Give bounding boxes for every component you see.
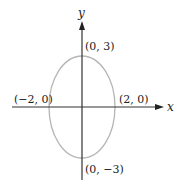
x-axis-arrow-icon [155,104,164,110]
y-axis-label: y [77,6,85,20]
point-label-right: (2, 0) [119,93,149,106]
point-label-top: (0, 3) [85,40,115,53]
y-axis-arrow-icon [79,21,85,30]
point-label-left: (−2, 0) [14,93,53,106]
point-label-bottom: (0, −3) [85,163,124,176]
x-axis-label: x [167,100,174,114]
ellipse-diagram: x y (0, 3) (0, −3) (−2, 0) (2, 0) [0,0,177,189]
